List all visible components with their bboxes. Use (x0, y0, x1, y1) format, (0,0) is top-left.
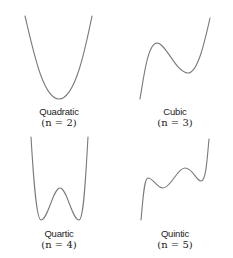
polynomial-degree-figure: Quadratic (n = 2) Cubic (n = 3) Quartic … (0, 0, 233, 258)
quintic-name: Quintic (130, 229, 220, 239)
quadratic-curve (25, 16, 92, 99)
cubic-label: Cubic (n = 3) (130, 107, 220, 128)
quartic-label: Quartic (n = 4) (14, 229, 104, 250)
cubic-degree: (n = 3) (130, 118, 220, 128)
quartic-degree: (n = 4) (14, 240, 104, 250)
quintic-curve (141, 139, 209, 220)
quadratic-label: Quadratic (n = 2) (14, 107, 104, 128)
cubic-curve (140, 18, 210, 99)
polynomial-curves (0, 0, 233, 258)
quintic-label: Quintic (n = 5) (130, 229, 220, 250)
quadratic-degree: (n = 2) (14, 118, 104, 128)
quartic-curve (31, 137, 88, 220)
cubic-name: Cubic (130, 107, 220, 117)
quartic-name: Quartic (14, 229, 104, 239)
quadratic-name: Quadratic (14, 107, 104, 117)
quintic-degree: (n = 5) (130, 240, 220, 250)
